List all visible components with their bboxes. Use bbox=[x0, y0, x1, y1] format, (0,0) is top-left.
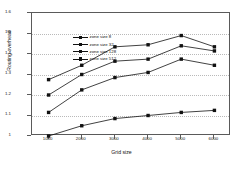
data-point-marker bbox=[213, 109, 216, 112]
legend-item: zone size 512 bbox=[73, 57, 116, 62]
legend-label: zone size 32 bbox=[90, 43, 114, 47]
chart-figure: Routing overhead 11.11.21.31.41.51.6 100… bbox=[0, 0, 243, 171]
data-point-marker bbox=[113, 117, 116, 120]
legend-label: zone size 128 bbox=[90, 50, 117, 54]
legend-label: zone size 512 bbox=[90, 57, 117, 61]
x-axis-title: Grid size bbox=[0, 150, 243, 155]
y-tick-label: 1.1 bbox=[0, 112, 11, 116]
data-point-marker bbox=[146, 57, 149, 60]
legend-marker-icon bbox=[73, 57, 88, 62]
data-point-marker bbox=[213, 49, 216, 52]
chart-legend: zone size 8zone size 32zone size 128zone… bbox=[73, 35, 116, 62]
legend-item: zone size 8 bbox=[73, 35, 116, 40]
y-tick-label: 1.5 bbox=[0, 30, 11, 34]
y-tick-label: 1.3 bbox=[0, 71, 11, 75]
data-point-marker bbox=[146, 114, 149, 117]
legend-marker-icon bbox=[73, 42, 88, 47]
data-point-marker bbox=[180, 111, 183, 114]
data-point-marker bbox=[180, 57, 183, 60]
legend-marker-icon bbox=[73, 35, 88, 40]
data-point-marker bbox=[47, 93, 50, 96]
legend-marker-icon bbox=[73, 49, 88, 54]
y-tick-label: 1.2 bbox=[0, 92, 11, 96]
data-point-marker bbox=[213, 45, 216, 48]
data-point-marker bbox=[47, 111, 50, 114]
y-tick-label: 1 bbox=[0, 133, 11, 137]
data-point-marker bbox=[47, 134, 50, 137]
series-line bbox=[49, 110, 215, 136]
data-point-marker bbox=[113, 76, 116, 79]
y-tick-label: 1.4 bbox=[0, 51, 11, 55]
legend-label: zone size 8 bbox=[90, 35, 112, 39]
data-point-marker bbox=[80, 124, 83, 127]
data-point-marker bbox=[213, 64, 216, 67]
series-line bbox=[49, 59, 215, 112]
data-point-marker bbox=[80, 73, 83, 76]
data-point-marker bbox=[47, 78, 50, 81]
data-point-marker bbox=[180, 44, 183, 47]
data-point-marker bbox=[146, 71, 149, 74]
plot-area: zone size 8zone size 32zone size 128zone… bbox=[31, 12, 230, 135]
data-point-marker bbox=[180, 34, 183, 37]
y-tick-label: 1.6 bbox=[0, 10, 11, 14]
data-point-marker bbox=[146, 43, 149, 46]
series-layer bbox=[32, 13, 231, 136]
y-tick-mark bbox=[27, 135, 31, 136]
legend-item: zone size 128 bbox=[73, 49, 116, 54]
data-point-marker bbox=[80, 64, 83, 67]
data-point-marker bbox=[80, 88, 83, 91]
legend-item: zone size 32 bbox=[73, 42, 116, 47]
